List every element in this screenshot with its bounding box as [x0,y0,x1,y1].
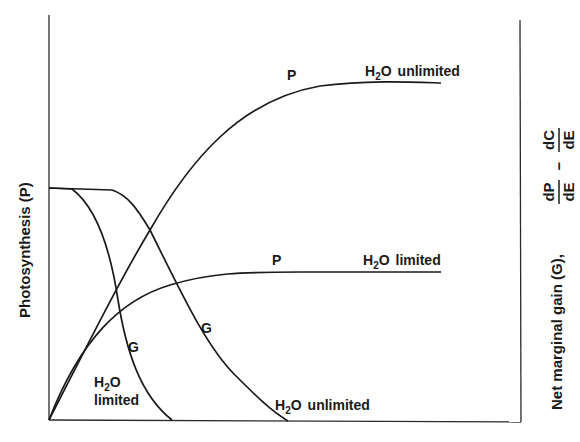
label-p-limited: P [272,252,281,268]
label-h2o-unlimited-bottom: H2Ounlimited [275,397,370,416]
label-h2o-bottom-left: H2O [94,374,121,393]
chart: P H2Ounlimited P H2Olimited G G H2O limi… [0,0,580,442]
curve-g-h2o-unlimited [49,188,288,421]
frac-dp: dP [540,182,557,201]
right-axis-label-text: Net marginal gain (G), [548,254,565,410]
frac-de-1: dE [560,182,577,201]
label-h2o-limited-mid: H2Olimited [363,252,441,271]
label-g-unlimited: G [201,320,212,336]
right-axis-label: Net marginal gain (G), dP dE − dC dE [540,128,577,410]
label-limited-bottom-left: limited [94,392,139,408]
label-h2o-unlimited-top: H2Ounlimited [365,63,460,82]
left-axis-label: Photosynthesis (P) [16,182,33,318]
frac-de-2: dE [560,130,577,149]
label-p-unlimited: P [287,67,296,83]
frac-dc: dC [540,130,557,150]
x-axis [49,420,521,422]
label-g-limited: G [128,339,139,355]
minus-sign: − [550,161,567,170]
right-y-axis [520,20,521,422]
